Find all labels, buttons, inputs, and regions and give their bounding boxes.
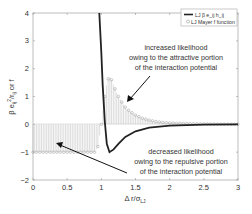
y-axis-label: β eij2/rij or f — [6, 78, 17, 114]
y-tick-label: 3 — [25, 36, 29, 45]
legend-label-mayer: LJ Mayer f function — [191, 19, 235, 25]
x-tick-label: 1.5 — [130, 183, 140, 192]
annotation-repulsive-line3: of the interaction potential — [140, 167, 223, 176]
x-tick-label: 2 — [168, 183, 172, 192]
annotation-repulsive: decreased likelihood owing to the repuls… — [134, 147, 228, 176]
y-tick-label: 1 — [25, 92, 29, 101]
y-tick-label: −1 — [20, 148, 29, 157]
x-tick-label: 0 — [31, 183, 35, 192]
chart: 00.511.522.53−2−101234 increased likelih… — [0, 0, 252, 214]
annotation-attractive-line2: owing to the attractive portion — [129, 53, 223, 62]
y-tick-label: 4 — [25, 9, 29, 18]
x-tick-label: 2.5 — [199, 183, 209, 192]
x-tick-label: 1 — [99, 183, 103, 192]
legend-label-lj: LJ β e_ij h_ij — [195, 12, 224, 18]
x-tick-label: 0.5 — [62, 183, 72, 192]
annotation-attractive-line1: increased likelihood — [144, 43, 207, 52]
annotation-repulsive-line1: decreased likelihood — [148, 147, 214, 156]
y-tick-label: −2 — [20, 176, 29, 185]
y-tick-label: 2 — [25, 64, 29, 73]
annotation-repulsive-line2: owing to the repulsive portion — [134, 157, 228, 166]
y-tick-label: 0 — [25, 120, 29, 129]
annotation-attractive-line3: of the interaction potential — [135, 63, 218, 72]
x-tick-label: 3 — [236, 183, 240, 192]
legend: LJ β e_ij h_ij LJ Mayer f function — [181, 9, 237, 26]
